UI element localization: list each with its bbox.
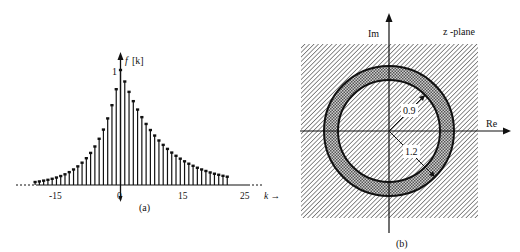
stem-marker [221, 175, 224, 177]
stem-marker [132, 100, 135, 102]
re-axis-label: Re [486, 118, 498, 129]
outer-radius-label: 1.2 [405, 146, 418, 157]
re-axis-arrow-icon [503, 128, 511, 135]
caption-b: (b) [396, 238, 408, 250]
stem-marker [68, 171, 71, 173]
stem-marker [209, 171, 212, 173]
stem-marker [46, 179, 49, 181]
stem-marker [187, 163, 190, 165]
figure: f [k] 1 -15 0 15 25 k → (a) 0.9 1.2 Im R… [0, 0, 520, 252]
stem-marker [200, 168, 203, 170]
inner-radius-label: 0.9 [403, 105, 416, 116]
im-axis-label: Im [368, 28, 379, 39]
y-axis-label-f: f [125, 55, 129, 66]
stem-marker [191, 165, 194, 167]
z-plane-label: z -plane [443, 26, 475, 37]
im-axis-arrow-icon [386, 13, 393, 22]
stem-marker [217, 174, 220, 176]
stem-marker [162, 144, 165, 146]
stem-marker [106, 117, 109, 119]
stem-marker [170, 151, 173, 153]
stem-marker [166, 148, 169, 150]
x-tick-25: 25 [240, 191, 250, 201]
stem-marker [85, 157, 88, 159]
y-axis-label-k: [k] [132, 55, 144, 66]
stem-marker [174, 155, 177, 157]
x-axis-label: k → [264, 191, 280, 201]
z-plane-diagram-panel-b: 0.9 1.2 Im Re z -plane (b) [300, 13, 511, 250]
x-tick-0: 0 [117, 191, 122, 201]
stem-marker [149, 129, 152, 131]
stem-marker [183, 160, 186, 162]
stem-marker [76, 165, 79, 167]
stem-marker [89, 152, 92, 154]
stem-series [34, 69, 229, 185]
x-tick-15: 15 [178, 191, 188, 201]
stem-marker [179, 157, 182, 159]
stem-marker [98, 138, 101, 140]
stem-marker [140, 116, 143, 118]
stem-marker [213, 173, 216, 175]
stem-marker [136, 108, 139, 110]
y-tick-1: 1 [112, 66, 117, 77]
stem-marker [55, 176, 58, 178]
stem-marker [123, 80, 126, 82]
stem-marker [115, 88, 118, 90]
stem-marker [93, 145, 96, 147]
stem-marker [38, 180, 41, 182]
stem-marker [196, 167, 199, 169]
stem-marker [157, 139, 160, 141]
stem-marker [42, 179, 45, 181]
stem-marker [63, 173, 66, 175]
stem-marker [34, 181, 37, 183]
stem-marker [226, 176, 229, 178]
x-tick-neg15: -15 [49, 191, 62, 201]
stem-marker [153, 134, 156, 136]
stem-marker [127, 91, 130, 93]
stem-marker [51, 178, 54, 180]
stem-marker [59, 175, 62, 177]
stem-marker [110, 104, 113, 106]
caption-a: (a) [139, 202, 150, 214]
stem-marker [204, 170, 207, 172]
stem-plot-panel-a: f [k] 1 -15 0 15 25 k → (a) [16, 52, 280, 214]
stem-marker [72, 168, 75, 170]
stem-marker [102, 128, 105, 130]
stem-marker [80, 161, 83, 163]
stem-marker [145, 123, 148, 125]
y-axis-arrow-icon [118, 52, 124, 60]
